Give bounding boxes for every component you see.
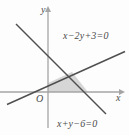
origin-label: O [36,94,43,104]
coordinate-plane-svg [0,0,129,135]
shaded-feasible-region [48,72,88,92]
line-x-minus-2y-plus-3 [7,52,125,105]
x-axis-label: x [116,93,121,103]
graph-figure: x−2y+3=0 x+y−6=0 O x y [0,0,129,135]
equation-label-line-2: x+y−6=0 [57,119,98,129]
y-axis-label: y [41,5,46,15]
equation-label-line-1: x−2y+3=0 [63,31,109,41]
